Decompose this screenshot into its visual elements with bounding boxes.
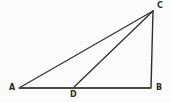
segment-cb <box>151 11 153 88</box>
vertex-label-b: B <box>156 84 162 92</box>
vertex-label-d: D <box>70 91 77 99</box>
vertex-label-a: A <box>9 84 15 92</box>
figure-canvas <box>0 0 171 102</box>
geometry-figure: A B C D <box>0 0 171 102</box>
segment-ac <box>19 11 153 88</box>
vertex-label-c: C <box>157 2 163 10</box>
